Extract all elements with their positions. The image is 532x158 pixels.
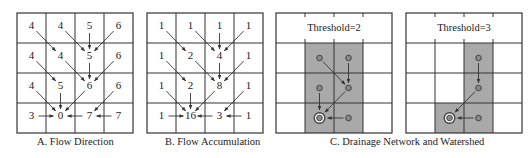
caption-drainage-network: C. Drainage Network and Watershed [330, 136, 484, 147]
stream-node [476, 85, 482, 91]
stream-node [476, 55, 482, 61]
threshold-label: Threshold=3 [437, 22, 491, 33]
caption-flow-accumulation: B. Flow Accumulation [165, 136, 260, 147]
stream-node [476, 115, 482, 121]
drainage-network-threshold-3-grid: Threshold=3 [0, 0, 532, 135]
caption-flow-direction: A. Flow Direction [37, 136, 114, 147]
